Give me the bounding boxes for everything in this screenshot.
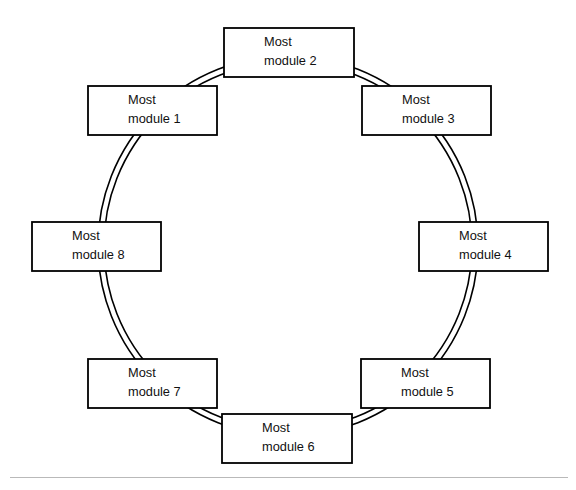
node-module-3[interactable]: Most module 3	[362, 86, 491, 135]
node-module-8[interactable]: Most module 8	[32, 222, 161, 271]
node-module-1[interactable]: Most module 1	[88, 86, 217, 135]
node-boxes-group: Most module 1 Most module 2 Most module …	[32, 28, 548, 463]
node-label-line1: Most	[264, 34, 292, 49]
node-label-line1: Most	[401, 365, 429, 380]
node-label-line1: Most	[72, 228, 100, 243]
node-label-line2: module 4	[459, 247, 512, 262]
node-module-6[interactable]: Most module 6	[222, 414, 352, 463]
node-module-4[interactable]: Most module 4	[419, 222, 548, 271]
node-label-line2: module 5	[401, 384, 454, 399]
node-module-7[interactable]: Most module 7	[88, 359, 217, 408]
node-label-line1: Most	[128, 92, 156, 107]
node-module-5[interactable]: Most module 5	[361, 359, 490, 408]
node-label-line2: module 6	[262, 439, 315, 454]
node-label-line1: Most	[402, 92, 430, 107]
node-label-line2: module 8	[72, 247, 125, 262]
node-label-line1: Most	[459, 228, 487, 243]
node-label-line1: Most	[262, 420, 290, 435]
footer-divider	[10, 477, 568, 478]
ring-diagram: Most module 1 Most module 2 Most module …	[0, 0, 576, 490]
node-label-line1: Most	[128, 365, 156, 380]
node-label-line2: module 1	[128, 111, 181, 126]
diagram-canvas: Most module 1 Most module 2 Most module …	[0, 0, 576, 490]
node-label-line2: module 7	[128, 384, 181, 399]
node-label-line2: module 3	[402, 111, 455, 126]
node-module-2[interactable]: Most module 2	[224, 28, 354, 77]
node-label-line2: module 2	[264, 53, 317, 68]
